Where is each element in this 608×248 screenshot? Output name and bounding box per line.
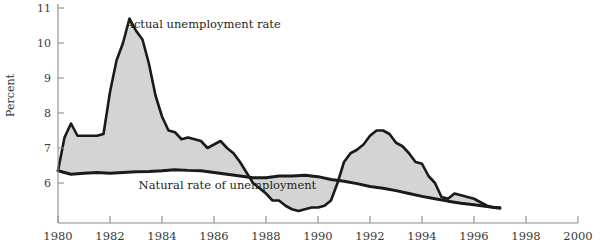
x-axis-tick-label: 1986 <box>199 229 228 243</box>
y-axis-tick-label: 6 <box>44 177 51 190</box>
unemployment-area-chart: 6789101119801982198419861988199019921994… <box>0 0 608 248</box>
x-axis-tick-label: 1988 <box>251 229 280 243</box>
y-axis-tick-label: 9 <box>44 72 51 85</box>
actual-rate-annotation: Actual unemployment rate <box>125 17 281 31</box>
x-axis-tick-label: 1984 <box>147 229 176 243</box>
x-axis-tick-label: 1990 <box>303 229 332 243</box>
x-axis-tick-label: 1982 <box>95 229 124 243</box>
natural-rate-annotation: Natural rate of unemployment <box>139 178 317 192</box>
x-axis-tick-label: 1992 <box>355 229 384 243</box>
y-axis-tick-label: 8 <box>44 107 51 120</box>
chart-container: 6789101119801982198419861988199019921994… <box>0 0 608 248</box>
x-axis-tick-label: 1980 <box>43 229 72 243</box>
y-axis-tick-label: 7 <box>44 142 51 155</box>
y-axis-tick-label: 10 <box>37 37 51 50</box>
y-axis-title: Percent <box>4 73 17 116</box>
x-axis-tick-label: 1998 <box>511 229 540 243</box>
x-axis-tick-label: 1994 <box>407 229 436 243</box>
y-axis-tick-label: 11 <box>37 2 51 15</box>
x-axis-tick-label: 1996 <box>459 229 488 243</box>
x-axis-tick-label: 2000 <box>563 229 592 243</box>
